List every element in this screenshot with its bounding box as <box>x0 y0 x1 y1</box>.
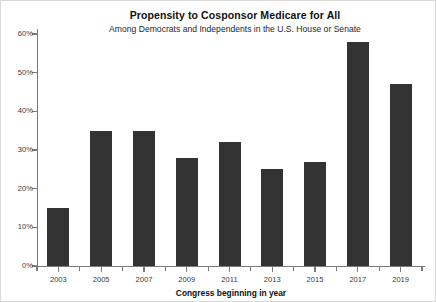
x-axis-tick <box>314 267 315 272</box>
bar <box>390 84 412 266</box>
x-axis-tick <box>101 267 102 272</box>
y-axis-tick-label: 50% <box>3 69 33 77</box>
x-axis-tick-label: 2007 <box>120 275 168 284</box>
bar <box>347 42 369 266</box>
x-axis-tick-label: 2019 <box>377 275 425 284</box>
x-axis-tick <box>357 267 358 272</box>
x-axis-tick <box>143 267 144 272</box>
x-axis-minor-tick <box>165 267 166 271</box>
bar <box>304 162 326 266</box>
x-axis-tick <box>186 267 187 272</box>
x-axis-tick <box>272 267 273 272</box>
x-axis-minor-tick <box>79 267 80 271</box>
y-axis-tick-label: 10% <box>3 223 33 231</box>
x-axis-minor-tick <box>379 267 380 271</box>
x-axis-tick-label: 2005 <box>77 275 125 284</box>
x-axis-minor-tick <box>36 267 37 271</box>
x-axis-tick-label: 2003 <box>34 275 82 284</box>
chart-title: Propensity to Cosponsor Medicare for All <box>35 9 435 22</box>
y-axis-tick-label: 30% <box>3 146 33 154</box>
y-axis-tick-label: 60% <box>3 30 33 38</box>
x-axis-minor-tick <box>336 267 337 271</box>
title-block: Propensity to Cosponsor Medicare for All… <box>1 9 435 35</box>
bar <box>261 169 283 266</box>
y-axis-tick-label: 40% <box>3 107 33 115</box>
x-axis-tick-label: 2009 <box>163 275 211 284</box>
bar <box>176 158 198 266</box>
x-axis-tick-label: 2011 <box>206 275 254 284</box>
x-axis-tick-label: 2013 <box>248 275 296 284</box>
bar <box>90 131 112 266</box>
x-axis-minor-tick <box>293 267 294 271</box>
x-axis-tick <box>229 267 230 272</box>
plot-area <box>37 34 422 266</box>
x-axis-tick <box>58 267 59 272</box>
x-axis-tick-label: 2017 <box>334 275 382 284</box>
x-axis-line <box>37 266 425 267</box>
bar <box>219 142 241 266</box>
x-axis-minor-tick <box>122 267 123 271</box>
x-axis-title: Congress beginning in year <box>37 288 425 298</box>
x-axis-minor-tick <box>250 267 251 271</box>
x-axis-tick <box>400 267 401 272</box>
bar <box>133 131 155 266</box>
y-axis-tick-label: 20% <box>3 185 33 193</box>
y-axis-tick-label: 0% <box>3 262 33 270</box>
bar <box>47 208 69 266</box>
x-axis-minor-tick <box>208 267 209 271</box>
x-axis-minor-tick <box>421 267 422 271</box>
chart-figure: Propensity to Cosponsor Medicare for All… <box>0 0 436 302</box>
x-axis-tick-label: 2015 <box>291 275 339 284</box>
